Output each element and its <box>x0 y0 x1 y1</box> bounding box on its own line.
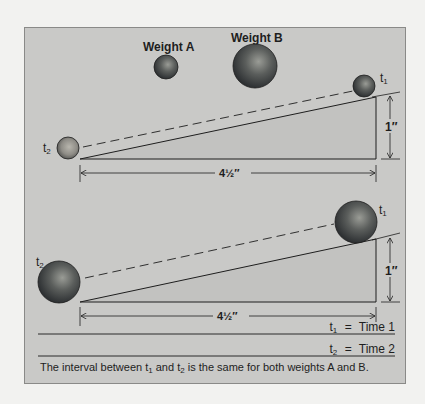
caption-text: is the same for both weights A and B. <box>185 361 369 373</box>
height-tick-top <box>372 92 400 97</box>
bottom-ramp: t2 t1 1″ 4½″ <box>36 201 400 326</box>
legend-sub: 2 <box>333 348 337 357</box>
weight-b-ball <box>233 44 277 88</box>
t2-label: t2 <box>43 141 51 156</box>
legend-meaning: Time 1 <box>359 320 395 334</box>
legend-equals: = <box>345 342 352 356</box>
legend-sub: 1 <box>333 326 337 335</box>
height-label: 1″ <box>385 264 398 278</box>
ball-b-t1 <box>335 201 377 243</box>
ramp-triangle <box>80 97 376 159</box>
legend-meaning: Time 2 <box>359 342 395 356</box>
weight-b-label: Weight B <box>231 31 283 45</box>
height-tick-top <box>372 233 400 240</box>
height-label: 1″ <box>385 120 398 134</box>
top-ramp: t2 t1 1″ 4½″ <box>43 71 400 182</box>
weight-b-legend: Weight B <box>231 31 283 88</box>
ball-a-t2 <box>57 137 79 159</box>
caption-text: The interval between t <box>40 361 148 373</box>
t1-label: t1 <box>380 71 388 86</box>
weight-a-legend: Weight A <box>143 40 195 79</box>
ramp-triangle <box>80 239 376 302</box>
legend-equals: = <box>345 320 352 334</box>
length-label: 4½″ <box>219 167 240 179</box>
t1-label: t1 <box>379 203 387 218</box>
legend-time-1: t1 = Time 1 <box>329 320 395 335</box>
ball-a-t1 <box>353 75 375 97</box>
weight-a-ball <box>154 55 178 79</box>
length-label: 4½″ <box>217 310 238 322</box>
legend-time-2: t2 = Time 2 <box>329 342 395 357</box>
weight-a-label: Weight A <box>143 40 195 54</box>
caption-text: and t <box>153 361 181 373</box>
caption: The interval between t1 and t2 is the sa… <box>40 361 400 375</box>
ball-b-t2 <box>38 261 80 303</box>
t2-label: t2 <box>36 255 44 270</box>
